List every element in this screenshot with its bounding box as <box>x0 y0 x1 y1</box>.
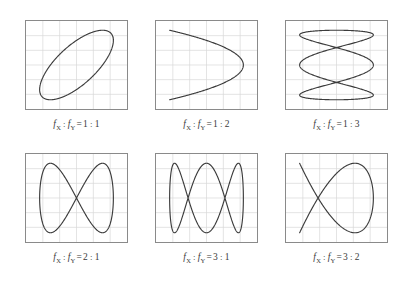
fy-symbol: fY <box>198 252 206 262</box>
equals-sign: = <box>336 119 344 129</box>
ratio-separator-left: : <box>61 119 68 129</box>
ratio-value-right: 2 <box>355 252 360 262</box>
lissajous-curve <box>156 154 257 242</box>
panel-caption: fX:fY=1:2 <box>155 119 258 131</box>
ratio-separator-right: : <box>218 119 225 129</box>
lissajous-curve <box>286 21 387 109</box>
ratio-separator-left: : <box>191 252 198 262</box>
ratio-value-right: 1 <box>225 252 230 262</box>
fy-subscript: Y <box>71 257 76 264</box>
panel-caption: fX:fY=2:1 <box>25 252 128 264</box>
plot-gridlines <box>156 21 257 109</box>
fy-symbol: fY <box>328 252 336 262</box>
lissajous-curve <box>286 154 387 242</box>
lissajous-figure-grid: fX:fY=1:1fX:fY=1:2fX:fY=1:3fX:fY=2:1fX:f… <box>0 0 409 294</box>
equals-sign: = <box>76 119 84 129</box>
fy-symbol: fY <box>328 119 336 129</box>
ratio-separator-left: : <box>191 119 198 129</box>
lissajous-curve <box>26 21 127 109</box>
ratio-separator-left: : <box>321 119 328 129</box>
fy-subscript: Y <box>331 124 336 131</box>
ratio-separator-right: : <box>218 252 225 262</box>
fx-symbol: fX <box>183 252 191 262</box>
ratio-separator-right: : <box>88 252 95 262</box>
plot-gridlines <box>286 21 387 109</box>
plot-frame <box>25 20 128 110</box>
equals-sign: = <box>206 252 214 262</box>
fy-symbol: fY <box>68 119 76 129</box>
panel-caption: fX:fY=3:1 <box>155 252 258 264</box>
plot-gridlines <box>286 154 387 242</box>
equals-sign: = <box>206 119 214 129</box>
ratio-separator-left: : <box>61 252 68 262</box>
lissajous-panel-3-1: fX:fY=3:1 <box>155 153 258 264</box>
panel-caption: fX:fY=1:3 <box>285 119 388 131</box>
ratio-value-right: 1 <box>95 252 100 262</box>
plot-gridlines <box>26 21 127 109</box>
fy-subscript: Y <box>201 124 206 131</box>
lissajous-curve <box>156 21 257 109</box>
fx-symbol: fX <box>313 119 321 129</box>
fy-subscript: Y <box>71 124 76 131</box>
lissajous-curve <box>26 154 127 242</box>
lissajous-panel-3-2: fX:fY=3:2 <box>285 153 388 264</box>
fy-symbol: fY <box>198 119 206 129</box>
ratio-value-right: 3 <box>355 119 360 129</box>
equals-sign: = <box>76 252 84 262</box>
panel-caption: fX:fY=3:2 <box>285 252 388 264</box>
ratio-value-right: 2 <box>225 119 230 129</box>
lissajous-panel-2-1: fX:fY=2:1 <box>25 153 128 264</box>
fy-subscript: Y <box>201 257 206 264</box>
lissajous-panel-1-2: fX:fY=1:2 <box>155 20 258 131</box>
plot-frame <box>285 153 388 243</box>
ratio-separator-right: : <box>88 119 95 129</box>
plot-gridlines <box>156 154 257 242</box>
plot-frame <box>25 153 128 243</box>
fx-symbol: fX <box>313 252 321 262</box>
fx-symbol: fX <box>53 119 61 129</box>
ratio-value-right: 1 <box>95 119 100 129</box>
lissajous-panel-1-1: fX:fY=1:1 <box>25 20 128 131</box>
ratio-separator-right: : <box>348 252 355 262</box>
plot-gridlines <box>26 154 127 242</box>
panel-caption: fX:fY=1:1 <box>25 119 128 131</box>
fx-symbol: fX <box>53 252 61 262</box>
ratio-separator-left: : <box>321 252 328 262</box>
plot-frame <box>285 20 388 110</box>
plot-frame <box>155 20 258 110</box>
fy-symbol: fY <box>68 252 76 262</box>
plot-frame <box>155 153 258 243</box>
fx-symbol: fX <box>183 119 191 129</box>
equals-sign: = <box>336 252 344 262</box>
fy-subscript: Y <box>331 257 336 264</box>
lissajous-panel-1-3: fX:fY=1:3 <box>285 20 388 131</box>
ratio-separator-right: : <box>348 119 355 129</box>
